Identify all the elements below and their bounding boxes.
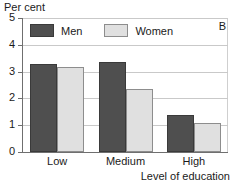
x-axis-line <box>22 152 228 153</box>
legend-entry-women: Women <box>104 24 173 37</box>
legend-entry-men: Men <box>30 24 82 37</box>
x-category-label-high: High <box>154 155 233 167</box>
legend-swatch-men-icon <box>30 24 54 37</box>
x-axis-title: Level of education <box>141 170 230 182</box>
bar-low-men <box>30 64 57 152</box>
y-tick-label: 2 <box>0 92 15 103</box>
bar-chart-figure: Per cent 012345 LowMediumHigh Level of e… <box>0 0 233 186</box>
y-tick-label: 5 <box>0 12 15 23</box>
bars-layer <box>23 18 228 152</box>
bar-high-men <box>167 115 194 152</box>
bar-medium-men <box>99 62 126 152</box>
y-tick-mark <box>18 152 23 153</box>
y-tick-label: 4 <box>0 39 15 50</box>
y-tick-label: 3 <box>0 66 15 77</box>
legend-swatch-women-icon <box>104 24 128 37</box>
chart-legend: Men Women <box>30 24 173 37</box>
legend-label-men: Men <box>61 25 82 37</box>
panel-label: B <box>219 20 226 32</box>
y-tick-label: 0 <box>0 146 15 157</box>
bar-medium-women <box>126 89 153 152</box>
bar-low-women <box>57 67 84 152</box>
legend-label-women: Women <box>135 25 173 37</box>
y-tick-label: 1 <box>0 119 15 130</box>
bar-high-women <box>194 123 221 152</box>
